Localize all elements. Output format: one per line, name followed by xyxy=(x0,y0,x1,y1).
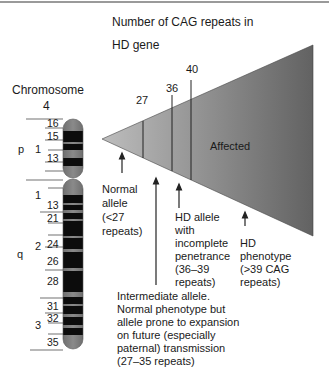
band-label: 13 xyxy=(47,199,59,211)
band-label: 13 xyxy=(47,152,59,164)
chromosome-number: 4 xyxy=(43,100,50,113)
arm-q-label: q xyxy=(17,248,23,261)
threshold-label-27: 27 xyxy=(136,94,148,107)
affected-label: Affected xyxy=(210,140,250,153)
threshold-label-40: 40 xyxy=(186,63,198,76)
band-label: 24 xyxy=(47,238,59,250)
region-q1-label: 1 xyxy=(35,189,41,202)
band-label: 26 xyxy=(47,255,59,267)
band-label: 15 xyxy=(47,130,59,142)
band-label: 31 xyxy=(47,300,59,312)
repeat-triangle xyxy=(102,45,313,236)
band-label: 35 xyxy=(47,336,59,348)
threshold-label-36: 36 xyxy=(166,82,178,95)
region-q3-label: 3 xyxy=(35,319,41,332)
region-p1-label: 1 xyxy=(35,143,41,156)
chromosome-title: Chromosome xyxy=(12,84,84,97)
chromosome-q-arm xyxy=(63,179,83,349)
arm-p-label: p xyxy=(18,143,24,156)
band-label: 32 xyxy=(47,312,59,324)
band-label: 16 xyxy=(47,117,59,129)
band-label: 28 xyxy=(47,275,59,287)
chromosome-p-arm xyxy=(63,119,83,178)
band-label: 21 xyxy=(47,212,59,224)
region-q2-label: 2 xyxy=(35,240,41,253)
